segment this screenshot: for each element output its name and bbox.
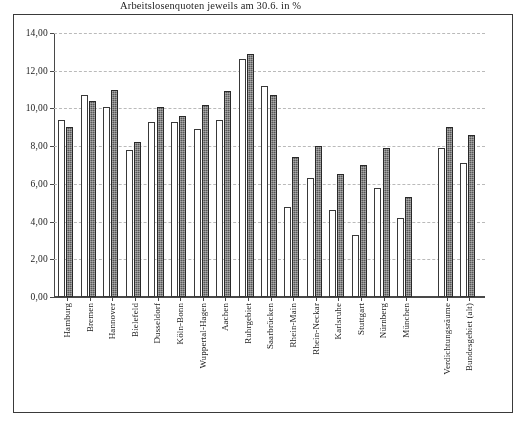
x-axis-label: Nürnberg	[378, 303, 388, 338]
x-axis-label: Aachen	[220, 303, 230, 331]
x-axis-label: Rhein-Main	[288, 303, 298, 348]
x-axis-label: Köln-Bonn	[175, 303, 185, 344]
x-axis-labels: HamburgBremenHannoverBielefeldDusseldorf…	[54, 0, 485, 439]
y-tick-label: 10,00	[26, 103, 48, 113]
y-tick-label: 6,00	[31, 179, 48, 189]
y-tick-label: 12,00	[26, 66, 48, 76]
x-axis-label: Hamburg	[62, 303, 72, 338]
y-tick-label: 8,00	[31, 141, 48, 151]
x-axis-label: Dusseldorf	[152, 303, 162, 344]
x-axis-label: Bielefeld	[130, 303, 140, 337]
y-tick-label: 0,00	[31, 292, 48, 302]
x-axis-label: Wuppertal-Hagen	[198, 303, 208, 369]
x-axis-label: Hannover	[107, 303, 117, 339]
chart-container: 0,002,004,006,008,0010,0012,0014,00 Arbe…	[0, 0, 531, 439]
x-axis-label: Bundesgebiet (alt)	[464, 303, 474, 371]
y-tick-label: 14,00	[26, 28, 48, 38]
x-axis-label: Rhein-Neckar	[311, 303, 321, 355]
x-axis-label: Ruhrgebiet	[243, 303, 253, 344]
x-axis-label: Bremen	[85, 303, 95, 332]
y-tick-label: 4,00	[31, 217, 48, 227]
y-tick-label: 2,00	[31, 254, 48, 264]
x-axis-label: Verdichtungsräume	[442, 303, 452, 375]
x-axis-label: Saarbrücken	[265, 303, 275, 349]
x-axis-label: München	[401, 303, 411, 338]
x-axis-label: Karlsruhe	[333, 303, 343, 339]
x-axis-label: Stuttgart	[356, 303, 366, 335]
